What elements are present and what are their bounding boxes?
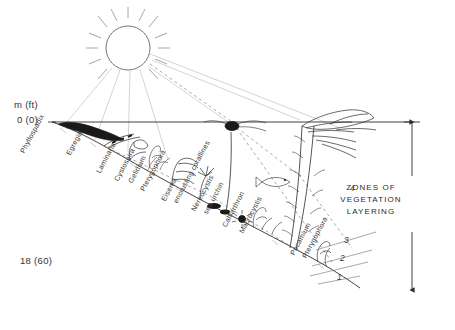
zone-number-1: 1: [337, 272, 342, 282]
zones-title-line-1: ZONES OF: [323, 182, 419, 194]
calliarthron-plant: [253, 208, 282, 234]
sun-icon: [86, 7, 170, 79]
depth-axis-bottom-label: 18 (60): [20, 255, 52, 266]
kelp-forest-profile-figure: [0, 0, 455, 330]
depth-axis-unit-label: m (ft): [14, 99, 38, 110]
zones-title-line-3: LAYERING: [323, 206, 419, 218]
macrocystis-plant: [282, 110, 376, 250]
zones-title-line-2: VEGETATION: [323, 194, 419, 206]
phyllospadix-plant: [58, 122, 124, 140]
zone-number-3: 3: [344, 235, 349, 245]
zone-number-2: 2: [340, 253, 345, 263]
fish-icon: [256, 177, 290, 187]
